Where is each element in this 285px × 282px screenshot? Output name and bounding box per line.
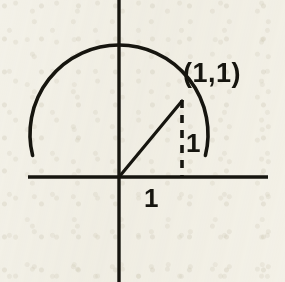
- geometry-figure: (1,1) 1 1: [0, 0, 285, 282]
- point-coordinate-label: (1,1): [183, 60, 241, 87]
- radius-segment-line: [119, 101, 182, 177]
- figure-canvas: [0, 0, 285, 282]
- horizontal-leg-length-label: 1: [144, 185, 158, 211]
- vertical-leg-length-label: 1: [186, 130, 200, 156]
